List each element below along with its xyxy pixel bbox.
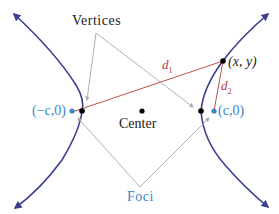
foci-label: Foci (127, 190, 154, 204)
vertex-pointer-right (96, 33, 193, 107)
point-label: (x, y) (228, 55, 257, 69)
hyperbola-point (220, 58, 226, 64)
vertices-label: Vertices (72, 14, 121, 28)
vertex-pointer-left (87, 33, 96, 100)
center-point (139, 108, 144, 113)
d1-subscript: 1 (169, 66, 173, 75)
left-vertex-point (79, 108, 85, 114)
d1-label: d1 (162, 58, 173, 75)
left-focus-label: (−c,0) (32, 104, 66, 118)
d2-subscript: 2 (228, 87, 232, 96)
distance-d1-line (72, 61, 223, 112)
right-vertex-point (198, 108, 204, 114)
left-focus-point (69, 108, 74, 113)
center-label: Center (119, 117, 156, 131)
d2-label: d2 (221, 79, 232, 96)
right-focus-label: (c,0) (218, 104, 244, 118)
right-focus-point (211, 108, 216, 113)
